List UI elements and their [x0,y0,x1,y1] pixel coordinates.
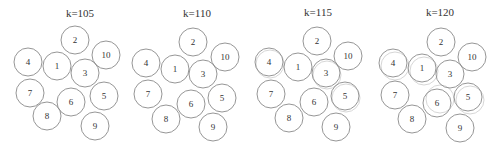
panel-title: k=105 [66,7,95,19]
node-circle-4: 4 [14,48,42,76]
circle-label: 2 [73,35,78,45]
circle-label: 1 [173,64,178,74]
node-circle-5: 5 [90,82,118,110]
node-circle-1: 1 [284,53,312,81]
panel-k-115: k=11521041376589 [255,6,362,141]
node-circle-4: 4 [255,48,283,76]
circle-label: 6 [189,99,194,109]
circle-label: 9 [334,122,339,132]
circle-label: 7 [393,90,398,100]
circle-label: 7 [146,89,151,99]
node-circle-5: 5 [208,84,236,112]
node-circle-7: 7 [257,80,285,108]
node-circle-3: 3 [312,59,340,87]
node-circle-7: 7 [16,79,44,107]
panel-k-105: k=10521041376589 [14,7,120,140]
node-circle-1: 1 [408,54,436,82]
node-circle-9: 9 [446,114,474,142]
circle-label: 4 [144,58,149,68]
node-circle-1: 1 [43,52,71,80]
circle-label: 8 [45,111,50,121]
circle-label: 3 [324,68,329,78]
circle-label: 6 [435,98,440,108]
circle-label: 2 [315,36,320,46]
circle-label: 10 [102,50,112,60]
node-circle-3: 3 [189,60,217,88]
circle-label: 6 [69,97,74,107]
circle-label: 10 [344,51,354,61]
circle-label: 3 [201,69,206,79]
node-circle-1: 1 [161,55,189,83]
node-circle-8: 8 [398,105,426,133]
circle-label: 8 [410,114,415,124]
circle-label: 3 [83,68,88,78]
node-circle-8: 8 [33,102,61,130]
circle-label: 8 [164,114,169,124]
node-circle-8: 8 [275,104,303,132]
circle-label: 3 [448,69,453,79]
node-circle-8: 8 [152,105,180,133]
node-circle-4: 4 [379,49,407,77]
circle-label: 9 [93,121,98,131]
circle-label: 9 [211,122,216,132]
node-circle-2: 2 [427,28,455,56]
circle-label: 1 [296,62,301,72]
panel-k-120: k=12021041376589 [379,6,486,142]
node-circle-6: 6 [57,88,85,116]
panel-k-110: k=11021041376589 [132,7,239,141]
circle-label: 9 [458,123,463,133]
circle-packing-figure: k=10521041376589k=11021041376589k=115210… [0,0,503,149]
panel-title: k=120 [426,6,455,18]
circle-label: 10 [468,52,478,62]
node-circle-5: 5 [454,83,482,111]
node-circle-6: 6 [300,88,328,116]
circle-label: 7 [269,89,274,99]
node-circle-7: 7 [134,80,162,108]
circle-label: 1 [420,63,425,73]
circle-label: 4 [26,57,31,67]
circle-label: 7 [28,88,33,98]
node-circle-2: 2 [303,27,331,55]
circle-label: 2 [191,37,196,47]
node-circle-5: 5 [331,82,359,110]
panel-title: k=110 [183,7,211,19]
node-circle-3: 3 [436,60,464,88]
node-circle-2: 2 [61,26,89,54]
circle-label: 5 [102,91,107,101]
circle-label: 10 [221,52,231,62]
circle-label: 4 [391,58,396,68]
panel-title: k=115 [304,6,332,18]
node-circle-7: 7 [381,81,409,109]
node-circle-3: 3 [71,59,99,87]
node-circle-6: 6 [177,90,205,118]
node-circle-9: 9 [81,112,109,140]
node-circle-9: 9 [199,113,227,141]
circle-label: 5 [466,92,471,102]
circle-label: 6 [312,97,317,107]
node-circle-4: 4 [132,49,160,77]
circle-label: 5 [343,91,348,101]
circle-label: 8 [287,113,292,123]
node-circle-9: 9 [322,113,350,141]
node-circle-2: 2 [179,28,207,56]
circle-label: 2 [439,37,444,47]
circle-label: 5 [220,93,225,103]
circle-label: 4 [267,57,272,67]
circle-label: 1 [55,61,60,71]
